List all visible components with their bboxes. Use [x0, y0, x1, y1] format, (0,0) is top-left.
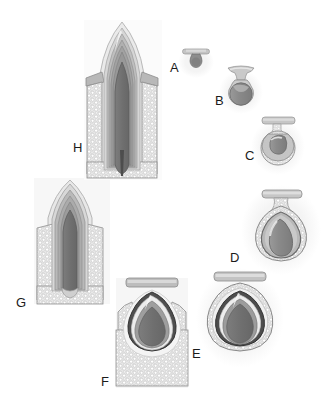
stage-f-illustration: [116, 278, 188, 388]
stage-label-c: C: [245, 148, 254, 163]
stage-a-illustration: [178, 46, 214, 78]
stage-e-illustration: [196, 268, 284, 368]
stage-label-b: B: [215, 93, 224, 108]
stage-h-illustration: [84, 20, 162, 180]
stage-label-a: A: [170, 60, 179, 75]
stage-g-illustration: [34, 178, 110, 304]
stage-label-e: E: [192, 346, 201, 361]
tooth-development-figure: A B C: [0, 0, 330, 400]
stage-label-g: G: [16, 295, 26, 310]
stage-d-illustration: [241, 185, 321, 275]
stage-label-d: D: [230, 250, 239, 265]
stage-label-h: H: [73, 140, 82, 155]
stage-label-f: F: [101, 374, 109, 389]
illustration-canvas: A B C: [0, 0, 330, 400]
